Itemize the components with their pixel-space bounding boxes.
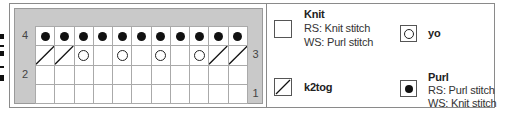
stitch-cell-knit — [171, 66, 190, 85]
purl-dot-icon — [137, 32, 146, 41]
stitch-cell-knit — [209, 85, 228, 104]
stitch-cell-k2tog — [209, 46, 228, 65]
purl-dot-icon — [195, 32, 204, 41]
legend-knit-ws: WS: Purl stitch — [304, 36, 373, 48]
row-number-1: 1 — [248, 87, 263, 99]
stitch-cell-knit — [94, 66, 113, 85]
stitch-cell-knit — [190, 66, 209, 85]
stitch-cell-purl — [55, 27, 74, 46]
stitch-cell-knit — [94, 85, 113, 104]
purl-dot-icon — [118, 32, 127, 41]
purl-dot-icon — [233, 32, 242, 41]
stitch-cell-knit — [75, 66, 94, 85]
stitch-cell-purl — [171, 27, 190, 46]
stitch-cell-knit — [190, 85, 209, 104]
stitch-cell-purl — [152, 27, 171, 46]
stitch-cell-knit — [36, 66, 55, 85]
stitch-cell-knit — [209, 66, 228, 85]
stitch-cell-knit — [152, 85, 171, 104]
purl-dot-icon — [60, 32, 69, 41]
stitch-cell-knit — [229, 66, 248, 85]
stitch-cell-knit — [55, 66, 74, 85]
stitch-cell-knit — [171, 85, 190, 104]
edge-mark — [0, 34, 4, 39]
stitch-cell-knit — [113, 66, 132, 85]
yo-circle-icon — [155, 50, 166, 61]
stitch-cell-yo — [152, 46, 171, 65]
stitch-cell-purl — [132, 27, 151, 46]
edge-mark — [0, 75, 4, 81]
stitch-cell-knit — [171, 46, 190, 65]
stitch-cell-purl — [229, 27, 248, 46]
stitch-cell-k2tog — [55, 46, 74, 65]
stitch-cell-purl — [94, 27, 113, 46]
stitch-cell-purl — [209, 27, 228, 46]
purl-symbol-icon — [400, 80, 417, 97]
stitch-cell-purl — [36, 27, 55, 46]
yo-circle-icon — [78, 50, 89, 61]
stitch-cell-yo — [75, 46, 94, 65]
k2tog-slash-icon — [55, 46, 73, 64]
row-number-2: 2 — [15, 68, 35, 80]
yo-circle-icon — [117, 50, 128, 61]
stitch-cell-k2tog — [36, 46, 55, 65]
stitch-cell-k2tog — [229, 46, 248, 65]
knit-symbol-icon — [274, 20, 292, 38]
edge-mark — [0, 45, 4, 47]
edge-mark — [0, 66, 4, 68]
k2tog-slash-icon — [209, 46, 227, 64]
legend-knit-rs: RS: Knit stitch — [304, 22, 370, 34]
yo-circle-icon — [194, 50, 205, 61]
legend-knit-title: Knit — [304, 8, 325, 20]
yo-symbol-icon — [400, 25, 417, 42]
purl-dot-icon — [214, 32, 223, 41]
figure-box: 4321 Knit RS: Knit stitch WS: Purl stitc… — [9, 3, 495, 108]
stitch-cell-purl — [190, 27, 209, 46]
k2tog-slash-icon — [229, 46, 247, 64]
purl-dot-icon — [79, 32, 88, 41]
stitch-cell-knit — [152, 66, 171, 85]
stitch-cell-knit — [55, 85, 74, 104]
yo-circle-icon — [404, 29, 414, 39]
k2tog-symbol-icon — [274, 78, 292, 96]
stitch-cell-knit — [132, 66, 151, 85]
purl-dot-icon — [98, 32, 107, 41]
k2tog-slash-icon — [36, 46, 54, 64]
stitch-cell-knit — [229, 85, 248, 104]
stitch-cell-yo — [113, 46, 132, 65]
legend-purl-title: Purl — [428, 71, 449, 83]
purl-dot-icon — [176, 32, 185, 41]
stitch-cell-knit — [36, 85, 55, 104]
stitch-cell-knit — [75, 85, 94, 104]
purl-dot-icon — [156, 32, 165, 41]
stitch-cell-knit — [132, 46, 151, 65]
stitch-cell-knit — [113, 85, 132, 104]
edge-mark — [0, 51, 4, 56]
legend-divider — [266, 4, 267, 107]
stitch-cell-purl — [75, 27, 94, 46]
row-number-4: 4 — [15, 29, 35, 41]
stitch-cell-yo — [190, 46, 209, 65]
purl-dot-icon — [405, 85, 413, 93]
purl-dot-icon — [41, 32, 50, 41]
stitch-cell-knit — [132, 85, 151, 104]
legend-k2tog-title: k2tog — [304, 81, 332, 93]
stitch-cell-purl — [113, 27, 132, 46]
legend-purl-rs: RS: Purl stitch — [428, 84, 495, 96]
legend-yo-title: yo — [428, 27, 440, 39]
row-number-3: 3 — [248, 48, 263, 60]
stitch-cell-knit — [94, 46, 113, 65]
legend-purl-ws: WS: Knit stitch — [428, 97, 497, 109]
stitch-grid — [35, 26, 248, 104]
stitch-chart: 4321 — [14, 8, 263, 104]
